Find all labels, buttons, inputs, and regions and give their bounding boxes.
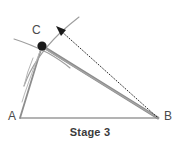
stage-3-figure: A B C Stage 3 xyxy=(0,0,180,152)
point-c-dot xyxy=(37,41,46,50)
figure-caption: Stage 3 xyxy=(0,126,180,138)
vertex-label-b: B xyxy=(164,110,172,122)
arc-from-b-tail xyxy=(22,46,42,102)
vertex-label-a: A xyxy=(8,110,16,122)
dotted-arrow-line xyxy=(61,31,157,117)
segment-cb-highlight xyxy=(44,48,158,118)
vertex-label-c: C xyxy=(32,24,41,36)
